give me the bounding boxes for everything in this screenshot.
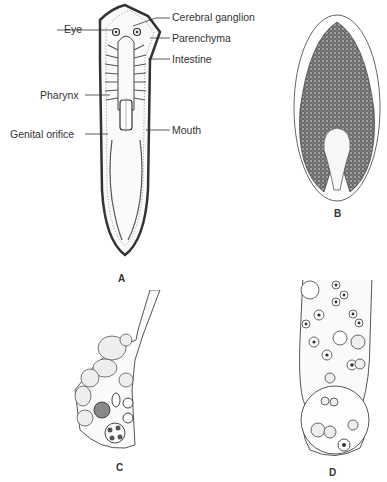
sac-cell-drawing [270,280,387,482]
label-pharynx: Pharynx [40,90,79,101]
label-mouth: Mouth [172,125,201,136]
oval-worm-drawing [270,0,387,290]
panel-b: B [270,0,387,290]
panel-label-a: A [118,273,125,284]
panel-a: Eye Cerebral ganglion Parenchyma Intesti… [0,0,240,290]
label-cerebral-ganglion: Cerebral ganglion [172,12,255,23]
panel-d: D [270,280,387,482]
panel-label-d: D [329,467,336,478]
label-intestine: Intestine [172,54,212,65]
flask-cell-drawing [50,290,220,482]
label-genital-orifice: Genital orifice [10,129,74,140]
panel-label-c: C [116,462,123,473]
panel-c: C [50,290,220,482]
label-eye: Eye [64,24,82,35]
label-parenchyma: Parenchyma [172,33,231,44]
panel-label-b: B [334,208,341,219]
